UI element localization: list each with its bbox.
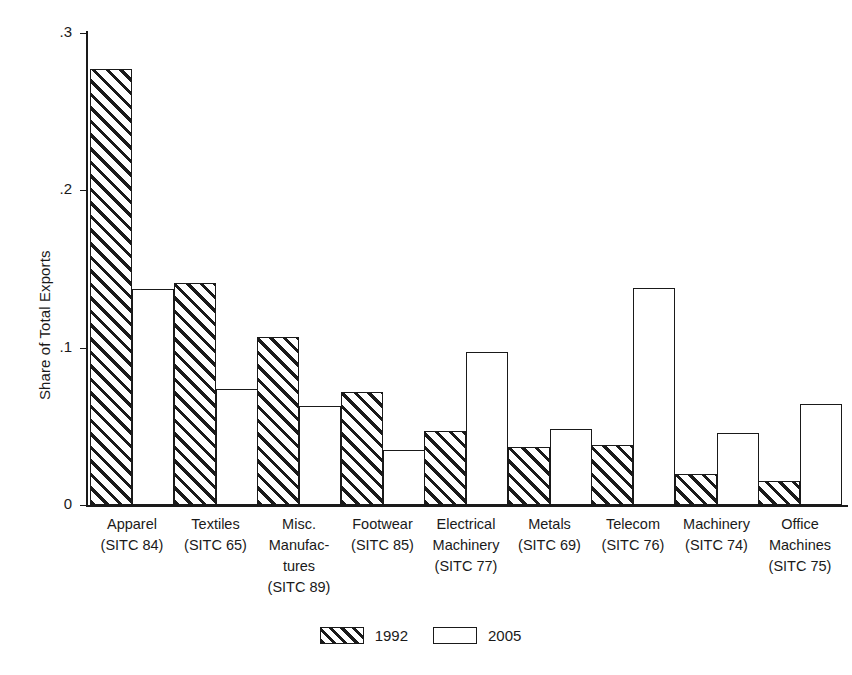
bar-1992-group-0: [90, 69, 132, 505]
x-category-label-8: Office Machines (SITC 75): [748, 514, 852, 577]
bar-1992-group-6: [591, 445, 633, 505]
y-tick-label: 0: [32, 495, 72, 512]
bar-1992-group-2: [257, 337, 299, 505]
y-axis-title: Share of Total Exports: [36, 250, 53, 400]
y-tick-label: .2: [32, 180, 72, 197]
chart-legend: 19922005: [0, 627, 841, 644]
legend-label-1992: 1992: [375, 627, 408, 644]
y-tick-mark: [80, 505, 87, 506]
y-axis-line: [86, 31, 88, 505]
y-tick-mark: [80, 190, 87, 191]
x-axis-line: [86, 505, 848, 507]
bar-2005-group-4: [466, 352, 508, 505]
bar-2005-group-3: [383, 450, 425, 505]
bar-1992-group-1: [174, 283, 216, 505]
legend-label-2005: 2005: [488, 627, 521, 644]
bar-2005-group-7: [717, 433, 759, 505]
bar-1992-group-3: [341, 392, 383, 505]
y-tick-mark: [80, 33, 87, 34]
bar-2005-group-5: [550, 429, 592, 505]
bar-1992-group-4: [424, 431, 466, 505]
bar-1992-group-5: [508, 447, 550, 505]
legend-swatch-2005: [433, 627, 477, 644]
bar-2005-group-8: [800, 404, 842, 505]
bar-2005-group-6: [633, 288, 675, 505]
bar-2005-group-2: [299, 406, 341, 505]
y-tick-label: .1: [32, 338, 72, 355]
bar-1992-group-7: [675, 474, 717, 505]
bar-1992-group-8: [758, 481, 800, 505]
legend-swatch-1992: [320, 627, 364, 644]
bar-2005-group-1: [216, 389, 258, 505]
bar-2005-group-0: [132, 289, 174, 505]
y-tick-mark: [80, 348, 87, 349]
y-tick-label: .3: [32, 23, 72, 40]
